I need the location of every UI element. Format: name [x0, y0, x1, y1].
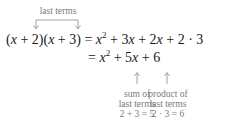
last-terms-bracket-icon [34, 20, 81, 29]
product-annotation-line-1: product of [142, 89, 194, 99]
lhs-expression: (x + 2)(x + 3) [6, 32, 81, 47]
up-arrows-icon [135, 73, 170, 85]
equation-line-1: (x + 2)(x + 3) = x2 + 3x + 2x + 2 · 3 [6, 32, 203, 48]
product-annotation: product of last terms 2 · 3 = 6 [142, 89, 194, 119]
product-annotation-line-2: last terms [142, 99, 194, 109]
rhs-expression-1: = x2 + 3x + 2x + 2 · 3 [84, 32, 203, 47]
rhs-expression-2: = x2 + 5x + 6 [88, 50, 160, 65]
product-annotation-line-3: 2 · 3 = 6 [142, 109, 194, 119]
equation-line-2: = x2 + 5x + 6 [88, 50, 160, 66]
last-terms-label: last terms [36, 6, 80, 16]
